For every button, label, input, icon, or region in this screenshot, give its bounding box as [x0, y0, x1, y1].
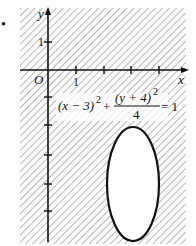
y-axis-label: y [36, 6, 44, 21]
equation-left-exponent: 2 [96, 94, 101, 105]
x-axis-label: x [177, 72, 184, 87]
equation-equals: = 1 [161, 99, 178, 114]
equation-denominator: 4 [133, 107, 140, 122]
y-tick-label: 1 [38, 35, 44, 49]
equation-numerator-exponent: 2 [153, 86, 158, 97]
origin-label: O [34, 72, 44, 87]
x-tick-label: 1 [73, 75, 79, 89]
ellipse-inequality-diagram: • y x O 1 1 (x − 3) 2 + (y + 4) 2 4 = 1 [0, 0, 196, 246]
ellipse-boundary [107, 127, 159, 241]
shaded-region [20, 8, 186, 244]
equation-left: (x − 3) [58, 98, 94, 113]
problem-marker: • [1, 17, 6, 32]
equation-numerator: (y + 4) [115, 90, 151, 105]
equation-plus: + [103, 99, 110, 114]
